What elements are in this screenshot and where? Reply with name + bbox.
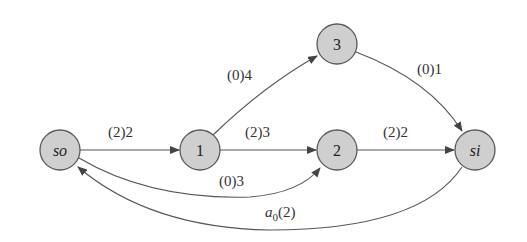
edge-label-3-si: (0)1 (417, 61, 442, 78)
node-so: so (40, 130, 80, 170)
edge-3-si (356, 52, 462, 131)
node-label-3: 3 (333, 36, 341, 53)
edge-label-so-1: (2)2 (108, 124, 133, 141)
edge-label-2-si: (2)2 (383, 124, 408, 141)
node-1: 1 (180, 130, 220, 170)
edge-label-1-3: (0)4 (227, 67, 252, 84)
edge-si-so (78, 167, 462, 230)
node-2: 2 (317, 130, 357, 170)
node-label-2: 2 (333, 142, 341, 159)
edge-label-si-so: a0(2) (265, 204, 296, 223)
edge-label-so-2: (0)3 (219, 173, 244, 190)
node-label-so: so (53, 142, 67, 159)
node-si: si (455, 130, 495, 170)
node-3: 3 (317, 24, 357, 64)
edge-label-1-2: (2)3 (245, 124, 270, 141)
node-label-si: si (470, 142, 481, 159)
flow-network-diagram: (2)2 (0)4 (2)3 (0)3 (2)2 (0)1 a0(2) so 1… (0, 0, 527, 242)
node-label-1: 1 (196, 142, 204, 159)
